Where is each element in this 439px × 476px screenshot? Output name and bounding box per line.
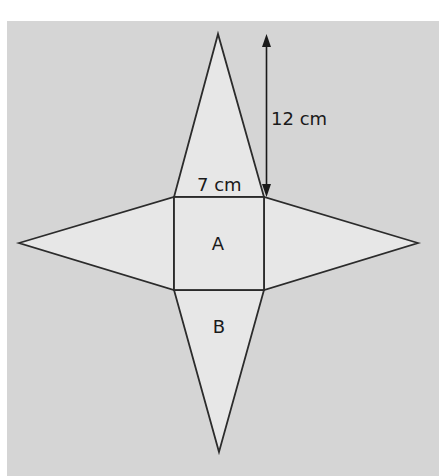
height-label: 12 cm xyxy=(271,108,327,129)
face-label-b: B xyxy=(213,316,225,337)
base-length-label: 7 cm xyxy=(197,174,242,195)
face-label-a: A xyxy=(212,233,225,254)
diagram-canvas: 12 cm 7 cm A B xyxy=(0,0,439,476)
